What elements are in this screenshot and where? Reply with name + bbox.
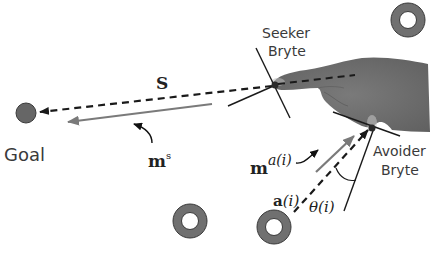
obstacle-bottom-left	[173, 204, 207, 238]
goal-circle	[16, 103, 36, 123]
seeker-label-line2: Bryte	[268, 43, 306, 59]
ms-pointer-arrow	[134, 124, 152, 143]
ma-vector-label: ma(i)	[250, 152, 292, 178]
s-vector-label: S	[156, 73, 168, 93]
avoider-label-line2: Bryte	[381, 162, 419, 178]
obstacle-bottom-center	[257, 210, 291, 244]
seeker-bryte-marker	[272, 82, 279, 89]
diagram-canvas: Goal S ms Seeker Bryte Avoider Bryte ma(…	[0, 0, 446, 260]
hand-image	[271, 57, 430, 132]
seeker-avoider-diagram: Goal S ms Seeker Bryte Avoider Bryte ma(…	[0, 0, 446, 260]
theta-label: θ(i)	[309, 198, 335, 216]
theta-angle-arc	[336, 168, 356, 181]
obstacle-top-right	[391, 3, 425, 37]
ma-pointer-arrow	[296, 150, 318, 163]
ms-vector-label: ms	[148, 150, 171, 171]
avoider-bryte-marker	[369, 125, 376, 132]
goal-label: Goal	[4, 144, 45, 165]
avoider-label-line1: Avoider	[373, 143, 426, 159]
seeker-perp-line	[228, 84, 278, 106]
seeker-label-line1: Seeker	[262, 25, 310, 41]
a-vector-label: a(i)	[273, 192, 299, 210]
